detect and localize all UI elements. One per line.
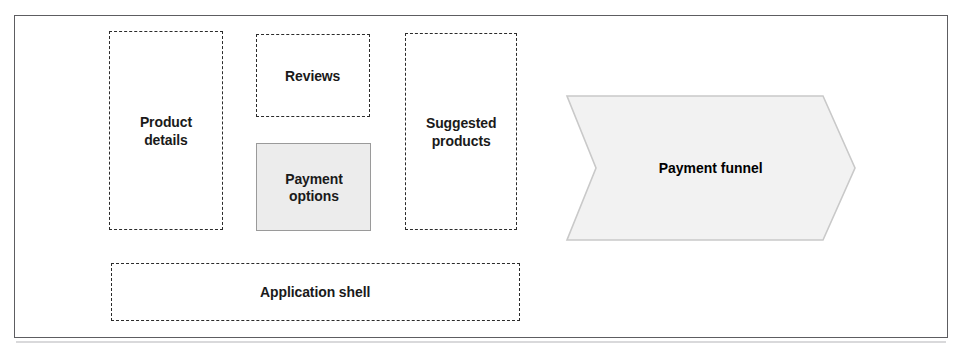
figure-canvas: Product details Reviews Payment options … (0, 0, 963, 354)
box-suggested-products: Suggested products (405, 33, 517, 230)
box-payment-options-label: Payment options (285, 170, 343, 205)
payment-funnel-svg (564, 93, 858, 243)
chevron-polygon (567, 96, 855, 240)
payment-funnel-shape: Payment funnel (564, 93, 858, 243)
box-product-details: Product details (109, 31, 223, 230)
diagram-frame: Product details Reviews Payment options … (14, 15, 948, 338)
box-reviews: Reviews (256, 34, 370, 117)
box-application-shell: Application shell (111, 263, 520, 321)
box-suggested-products-label: Suggested products (426, 114, 497, 149)
box-application-shell-label: Application shell (260, 283, 370, 300)
box-reviews-label: Reviews (285, 67, 340, 84)
box-payment-options: Payment options (256, 143, 371, 231)
box-product-details-label: Product details (140, 113, 192, 148)
scan-edge-artifact (16, 341, 946, 343)
